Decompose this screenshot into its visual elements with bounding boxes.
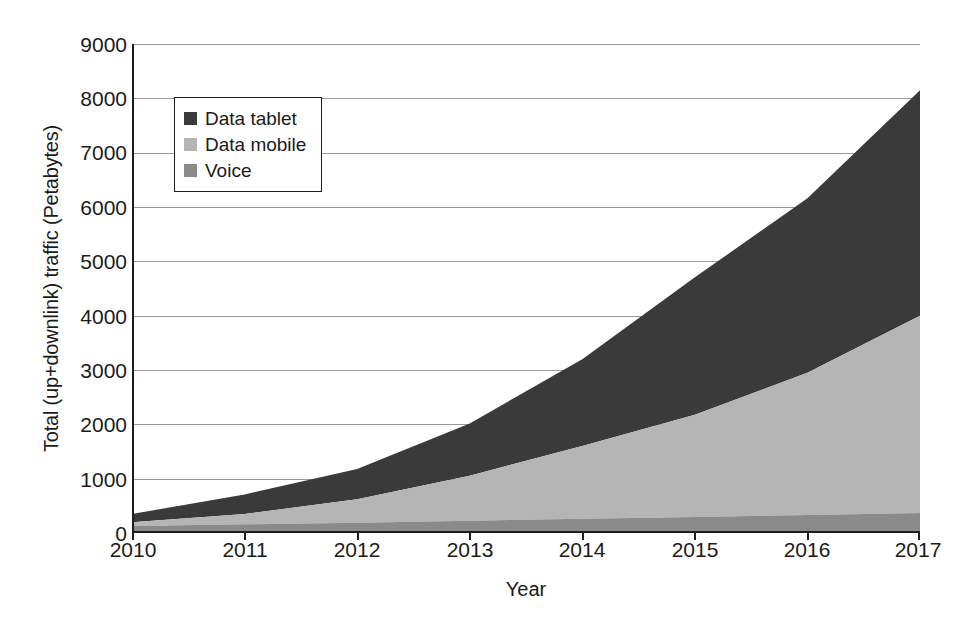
y-tick-label-4000: 4000 (7, 306, 127, 327)
y-tick-label-5000: 5000 (7, 251, 127, 272)
y-tick-label-7000: 7000 (7, 142, 127, 163)
x-axis-label: Year (132, 578, 920, 601)
chart-figure: Total (up+downlink) traffic (Petabytes) … (0, 0, 970, 641)
x-tick-label-2017: 2017 (873, 539, 963, 560)
square-swatch-icon (184, 164, 197, 177)
legend-item-voice: Voice (184, 157, 312, 183)
x-tick-label-2013: 2013 (425, 539, 515, 560)
chart-legend: Data tablet Data mobile Voice (174, 97, 322, 192)
legend-label-data-mobile: Data mobile (205, 135, 306, 154)
square-swatch-icon (184, 138, 197, 151)
y-tick-label-1000: 1000 (7, 469, 127, 490)
x-tick-label-2014: 2014 (537, 539, 627, 560)
y-tick-label-9000: 9000 (7, 34, 127, 55)
x-tick-label-2010: 2010 (88, 539, 178, 560)
x-tick-label-2011: 2011 (200, 539, 290, 560)
y-tick-label-8000: 8000 (7, 88, 127, 109)
legend-item-data-mobile: Data mobile (184, 131, 312, 157)
x-tick-label-2015: 2015 (650, 539, 740, 560)
y-tick-label-2000: 2000 (7, 414, 127, 435)
legend-label-voice: Voice (205, 161, 251, 180)
legend-item-data-tablet: Data tablet (184, 105, 312, 131)
x-tick-label-2012: 2012 (312, 539, 402, 560)
y-axis-line (132, 44, 134, 533)
y-tick-label-3000: 3000 (7, 360, 127, 381)
square-swatch-icon (184, 112, 197, 125)
x-axis-line (132, 531, 920, 533)
legend-label-data-tablet: Data tablet (205, 109, 297, 128)
y-axis-label: Total (up+downlink) traffic (Petabytes) (34, 44, 68, 533)
x-tick-label-2016: 2016 (762, 539, 852, 560)
y-tick-label-6000: 6000 (7, 197, 127, 218)
